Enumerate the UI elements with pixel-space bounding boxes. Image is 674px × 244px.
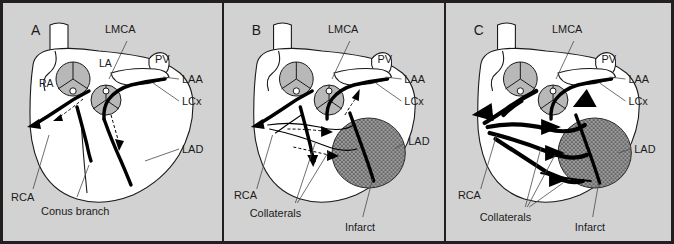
figure-container: A xyxy=(0,0,674,244)
label-lad-a: LAD xyxy=(182,143,203,155)
panel-a: A xyxy=(3,3,222,241)
label-pv-a: PV xyxy=(155,53,170,65)
panel-letter-c: C xyxy=(474,22,484,38)
panel-b: B xyxy=(222,3,444,241)
panel-letter-a: A xyxy=(31,22,41,38)
label-lmca-a: LMCA xyxy=(105,23,136,35)
label-lcx-a: LCx xyxy=(182,95,202,107)
label-collaterals-b: Collaterals xyxy=(250,207,302,219)
inline-label-ra: RA xyxy=(39,77,54,89)
panel-c: C xyxy=(444,3,671,241)
label-lad-b: LAD xyxy=(408,135,429,147)
label-lmca-b: LMCA xyxy=(328,23,359,35)
label-collaterals-c: Collaterals xyxy=(480,211,532,223)
label-pv-b: PV xyxy=(378,53,393,65)
label-rca-b: RCA xyxy=(234,189,258,201)
panel-letter-b: B xyxy=(252,22,261,38)
label-rca-c: RCA xyxy=(458,189,482,201)
label-lcx-c: LCx xyxy=(628,95,648,107)
label-lcx-b: LCx xyxy=(404,95,424,107)
label-infarct-b: Infarct xyxy=(345,221,375,233)
label-conus-branch-a: Conus branch xyxy=(41,205,110,217)
label-lmca-c: LMCA xyxy=(552,23,583,35)
label-rca-a: RCA xyxy=(11,191,35,203)
label-pv-c: PV xyxy=(602,53,617,65)
label-lad-c: LAD xyxy=(634,143,655,155)
label-infarct-c: Infarct xyxy=(575,221,605,233)
inline-label-la: LA xyxy=(99,57,112,69)
label-laa-c: LAA xyxy=(628,73,649,85)
label-laa-a: LAA xyxy=(182,73,203,85)
label-laa-b: LAA xyxy=(404,73,425,85)
